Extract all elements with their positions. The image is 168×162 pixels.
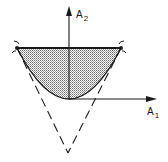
- horizontal-axis-arrow-icon: [146, 96, 157, 102]
- horizontal-axis-label-subscript: 1: [155, 111, 159, 120]
- left-corner-dot: [15, 46, 19, 50]
- horizontal-axis-label: A1: [147, 107, 159, 121]
- parabola-cone-diagram: [0, 0, 168, 162]
- vertical-axis-label-text: A: [76, 9, 83, 20]
- vertical-axis-label-subscript: 2: [84, 14, 88, 23]
- vertical-axis-arrow-icon: [66, 6, 72, 16]
- vertical-axis-label: A2: [76, 10, 88, 24]
- horizontal-axis-label-text: A: [147, 106, 154, 117]
- right-corner-dot: [119, 46, 123, 50]
